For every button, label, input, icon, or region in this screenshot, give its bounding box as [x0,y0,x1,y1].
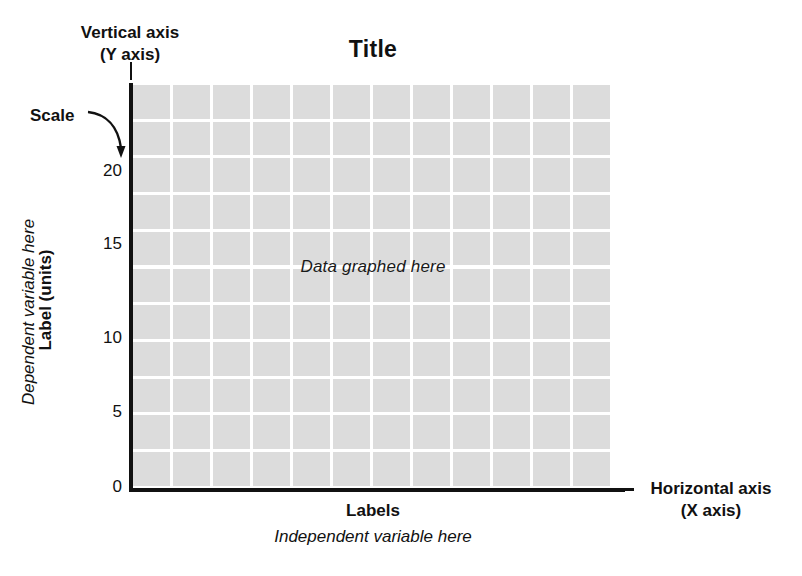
y-tick-label: 15 [82,234,122,254]
data-placeholder-text: Data graphed here [133,257,613,277]
x-axis-description: Independent variable here [133,527,613,547]
y-axis-description: Dependent variable here [19,197,39,427]
callout-vertical-axis-line1: Vertical axis [58,22,202,44]
callout-scale: Scale [30,105,74,127]
callout-horizontal-axis: Horizontal axis (X axis) [632,478,790,522]
y-tick-label: 5 [82,402,122,422]
vertical-axis-leader-line [130,62,132,80]
callout-vertical-axis: Vertical axis (Y axis) [58,22,202,66]
chart-title: Title [133,36,613,63]
plot-area: Data graphed here [133,85,613,489]
figure-canvas: Title Vertical axis (Y axis) Scale Label… [0,0,802,576]
scale-arrow-icon [86,108,132,164]
callout-horizontal-axis-line1: Horizontal axis [632,478,790,500]
x-axis-title: Labels [133,501,613,521]
y-axis-title: Label (units) [36,200,56,400]
y-tick-label: 20 [82,161,122,181]
y-tick-label: 10 [82,328,122,348]
callout-horizontal-axis-line2: (X axis) [632,500,790,522]
y-axis-line [129,83,133,492]
x-axis-line [129,488,625,492]
y-tick-label: 0 [82,477,122,497]
